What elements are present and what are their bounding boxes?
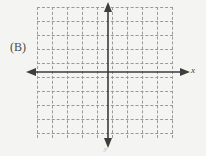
arrow-up-icon <box>104 2 112 12</box>
coordinate-plane-figure: (B) x y <box>0 0 206 156</box>
axes-group <box>0 0 206 156</box>
y-axis-label: y <box>104 145 107 153</box>
arrow-left-icon <box>26 68 36 76</box>
x-axis-label: x <box>191 65 195 75</box>
arrow-right-icon <box>180 68 190 76</box>
